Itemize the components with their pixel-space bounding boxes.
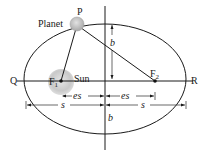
label-p: P (77, 6, 83, 17)
label-planet: Planet (38, 18, 63, 29)
dimension-es-left (62, 95, 104, 98)
label-es-right: es (121, 90, 129, 101)
focus-1-point (59, 79, 63, 83)
label-b-top: b (110, 37, 115, 48)
dimension-b-top (111, 25, 114, 79)
label-sun: Sun (74, 73, 90, 84)
label-r: R (191, 75, 198, 86)
label-s-right: s (141, 99, 145, 110)
dimension-es-right (106, 92, 155, 100)
ellipse-orbit-diagram: Planet P Sun F1 F2 Q R b b es es s s (0, 0, 210, 156)
label-es-left: es (73, 90, 81, 101)
label-b-bottom: b (108, 112, 113, 123)
label-q: Q (10, 75, 18, 86)
dimension-s-left (26, 101, 104, 109)
label-s-left: s (61, 99, 65, 110)
planet-body (70, 17, 84, 31)
